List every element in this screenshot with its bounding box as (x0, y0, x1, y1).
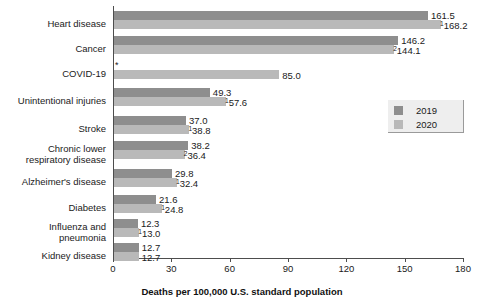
x-tick-label: 120 (338, 263, 354, 274)
legend-item-2019[interactable]: 2019 (394, 104, 437, 117)
bar-2019[interactable] (114, 141, 188, 150)
bar-value-2019: 12.7 (142, 243, 161, 252)
bar-value-2020: 85.0 (282, 71, 301, 80)
x-tick-label: 90 (283, 263, 294, 274)
bar-2020[interactable] (114, 125, 189, 134)
bar-value-2020: 124.8 (161, 205, 183, 214)
legend-swatch-2019 (394, 106, 403, 115)
bar-value-2019: 29.8 (175, 169, 194, 178)
x-tick (288, 258, 289, 262)
bar-2019[interactable] (114, 195, 156, 204)
x-tick (346, 258, 347, 262)
category-label: COVID-19 (62, 69, 106, 80)
bar-2020[interactable] (114, 150, 185, 159)
bar-2019[interactable] (114, 169, 172, 178)
category-label: Heart disease (47, 19, 106, 30)
bar-2019[interactable] (114, 36, 398, 45)
bar-2020[interactable] (114, 228, 139, 237)
bar-value-2020: 236.4 (184, 151, 206, 160)
category-label: Cancer (75, 44, 106, 55)
bar-value-2020: 12.7 (142, 253, 161, 262)
category-label: Kidney disease (42, 251, 106, 262)
bar-value-2020: 2144.1 (393, 46, 420, 55)
legend-swatch-2020 (394, 120, 403, 129)
bar-value-2019: 21.6 (159, 195, 178, 204)
category-label: Influenza and pneumonia (49, 222, 106, 243)
bar-2020[interactable] (114, 252, 139, 261)
bar-value-2019: 146.2 (401, 36, 425, 45)
category-label: Unintentional injuries (18, 96, 106, 107)
bar-value-2019: 49.3 (213, 88, 232, 97)
chart-legend: 2019 2020 (388, 100, 464, 133)
bar-group: 38.2236.4 (114, 141, 464, 159)
x-tick (405, 258, 406, 262)
mortality-bar-chart: Heart diseaseCancerCOVID-19Unintentional… (0, 0, 484, 307)
x-tick (463, 258, 464, 262)
x-tick-label: 0 (110, 263, 115, 274)
bar-group: 161.51168.2 (114, 11, 464, 29)
bar-value-2019: 161.5 (431, 11, 455, 20)
legend-label-2020: 2020 (416, 120, 437, 129)
bar-group: 12.712.7 (114, 243, 464, 261)
x-tick-label: 60 (224, 263, 235, 274)
bar-group: 146.22144.1 (114, 36, 464, 54)
x-axis-title: Deaths per 100,000 U.S. standard populat… (0, 286, 484, 297)
bar-group: 21.6124.8 (114, 195, 464, 213)
category-label: Diabetes (69, 203, 107, 214)
bar-2019[interactable] (114, 243, 139, 252)
bar-2020[interactable] (114, 45, 394, 54)
missing-data-asterisk: * (115, 61, 119, 70)
bar-group: 29.8132.4 (114, 169, 464, 187)
bar-value-2020: 138.8 (188, 126, 210, 135)
bar-group: *85.0 (114, 61, 464, 79)
bar-value-2019: 37.0 (189, 116, 208, 125)
bar-value-2019: 38.2 (191, 141, 210, 150)
legend-item-2020[interactable]: 2020 (394, 118, 437, 131)
x-tick (230, 258, 231, 262)
category-label: Stroke (79, 124, 106, 135)
x-tick-label: 150 (397, 263, 413, 274)
x-tick (113, 258, 114, 262)
x-tick (171, 258, 172, 262)
bar-group: 12.3113.0 (114, 219, 464, 237)
bar-2020[interactable] (114, 20, 441, 29)
bar-2019[interactable] (114, 88, 210, 97)
bar-value-2020: 157.6 (225, 98, 247, 107)
category-axis-labels: Heart diseaseCancerCOVID-19Unintentional… (0, 0, 110, 258)
bar-value-2019: 12.3 (141, 219, 160, 228)
category-label: Alzheimer's disease (22, 177, 106, 188)
x-tick-label: 180 (455, 263, 471, 274)
bar-value-2020: 132.4 (176, 179, 198, 188)
bar-2020[interactable] (114, 204, 162, 213)
bar-2020[interactable] (114, 70, 279, 79)
bar-value-2020: 113.0 (138, 229, 160, 238)
bar-2020[interactable] (114, 178, 177, 187)
bar-2020[interactable] (114, 97, 226, 106)
bar-2019[interactable] (114, 219, 138, 228)
bar-2019[interactable] (114, 116, 186, 125)
legend-label-2019: 2019 (416, 106, 437, 115)
bar-value-2020: 1168.2 (440, 21, 467, 30)
x-tick-label: 30 (166, 263, 177, 274)
category-label: Chronic lower respiratory disease (26, 144, 106, 165)
bar-2019[interactable] (114, 11, 428, 20)
